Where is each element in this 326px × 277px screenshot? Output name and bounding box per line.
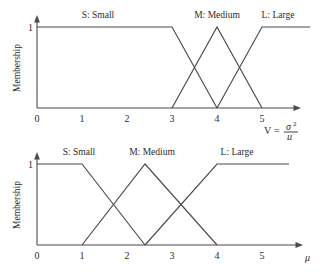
x-tick-label-4-bottom: 4 — [215, 250, 220, 261]
chart-top-variance-ratio: 1 0 1 2 3 4 5 S: Small M: Medium L: Larg… — [0, 0, 326, 140]
x-tick-label-1-bottom: 1 — [80, 250, 85, 261]
curve-medium-top — [172, 27, 262, 108]
set-label-large-bottom: L: Large — [221, 147, 254, 157]
x-tick-label-3-bottom: 3 — [170, 250, 175, 261]
curve-small-top — [37, 27, 217, 108]
x-tick-label-2-top: 2 — [125, 113, 130, 124]
chart-top-svg: 1 0 1 2 3 4 5 S: Small M: Medium L: Larg… — [0, 0, 326, 140]
x-tick-label-4-top: 4 — [215, 113, 220, 124]
x-axis-title-bottom: μ — [304, 252, 310, 263]
y-axis-title-top: Membership — [12, 44, 22, 92]
x-axis-title-equals: = — [274, 125, 280, 136]
chart-bottom-mean: 1 0 1 2 3 4 5 S: Small M: Medium L: Larg… — [0, 137, 326, 277]
set-label-large-top: L: Large — [262, 10, 295, 20]
curve-large-top — [217, 27, 310, 108]
y-tick-label-1-bottom: 1 — [28, 159, 33, 170]
y-axis-arrow-bottom — [34, 152, 40, 160]
x-axis-title-numerator-exponent: 2 — [293, 120, 297, 128]
set-label-small-top: S: Small — [82, 10, 115, 20]
set-label-medium-top: M: Medium — [194, 10, 240, 20]
x-tick-label-3-top: 3 — [170, 113, 175, 124]
x-axis-title-variable: V — [264, 125, 272, 136]
x-tick-label-1-top: 1 — [80, 113, 85, 124]
y-axis-title-bottom: Membership — [12, 181, 22, 229]
x-tick-label-0-bottom: 0 — [35, 250, 40, 261]
y-axis-arrow-top — [34, 15, 40, 23]
fuzzy-membership-figure: 1 0 1 2 3 4 5 S: Small M: Medium L: Larg… — [0, 0, 326, 277]
curve-large-bottom — [145, 164, 289, 245]
set-label-small-bottom: S: Small — [63, 147, 96, 157]
set-label-medium-bottom: M: Medium — [129, 147, 175, 157]
x-axis-arrow-bottom — [296, 242, 304, 248]
x-tick-label-5-top: 5 — [260, 113, 265, 124]
curve-medium-bottom — [82, 164, 217, 245]
x-tick-label-0-top: 0 — [35, 113, 40, 124]
y-tick-label-1-top: 1 — [28, 22, 33, 33]
x-tick-label-5-bottom: 5 — [260, 250, 265, 261]
x-tick-label-2-bottom: 2 — [125, 250, 130, 261]
x-axis-arrow-top — [294, 105, 302, 111]
chart-bottom-svg: 1 0 1 2 3 4 5 S: Small M: Medium L: Larg… — [0, 137, 326, 277]
